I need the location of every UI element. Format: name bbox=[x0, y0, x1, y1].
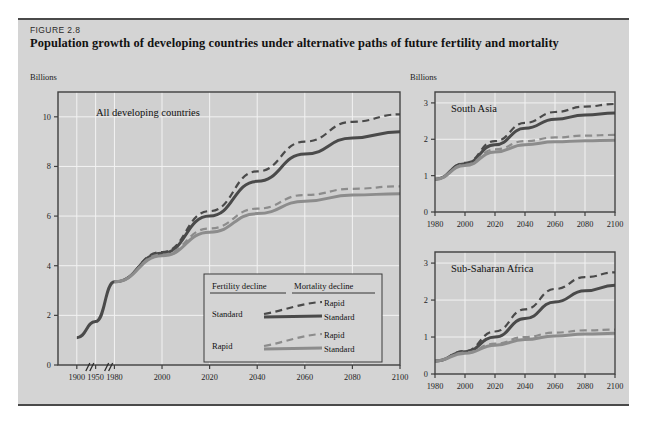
x-tick-label: 2100 bbox=[607, 382, 624, 391]
x-tick-label: 2020 bbox=[201, 373, 218, 382]
south-asia-chart-svg: 01231980200020202040206020802100South As… bbox=[403, 82, 629, 242]
y-tick-label: 6 bbox=[47, 212, 51, 221]
legend-label: Standard bbox=[212, 309, 243, 319]
y-tick-label: 0 bbox=[47, 361, 51, 370]
panel-title: South Asia bbox=[451, 103, 497, 114]
x-tick-label: 2000 bbox=[154, 373, 171, 382]
legend-label: Mortality decline bbox=[294, 281, 354, 291]
panel-title: Sub-Saharan Africa bbox=[451, 263, 534, 274]
y-tick-label: 2 bbox=[424, 135, 428, 144]
main-chart-axis-unit: Billions bbox=[30, 72, 57, 82]
x-tick-label: 2000 bbox=[457, 382, 474, 391]
x-tick-label: 2100 bbox=[607, 220, 624, 229]
x-tick-label: 2020 bbox=[487, 382, 504, 391]
x-tick-label: 2040 bbox=[517, 220, 534, 229]
y-tick-label: 0 bbox=[424, 208, 428, 217]
y-tick-label: 10 bbox=[43, 113, 51, 122]
legend-label: Rapid bbox=[212, 341, 233, 351]
y-tick-label: 4 bbox=[47, 262, 52, 271]
y-tick-label: 3 bbox=[424, 259, 428, 268]
chart-panel-sub-saharan-africa: 01231980200020202040206020802100Sub-Saha… bbox=[403, 242, 629, 404]
chart-panel-south-asia: 01231980200020202040206020802100South As… bbox=[403, 82, 629, 242]
x-tick-label: 2080 bbox=[577, 220, 594, 229]
y-tick-label: 1 bbox=[424, 333, 428, 342]
legend-label: Rapid bbox=[324, 298, 345, 308]
south-asia-axis-unit: Billions bbox=[410, 72, 437, 82]
legend-label: Fertility decline bbox=[212, 281, 267, 291]
x-tick-label: 1980 bbox=[427, 220, 444, 229]
y-tick-label: 8 bbox=[47, 162, 51, 171]
figure-root: FIGURE 2.8 Population growth of developi… bbox=[0, 0, 647, 431]
figure-number: FIGURE 2.8 bbox=[30, 25, 80, 35]
y-tick-label: 1 bbox=[424, 172, 428, 181]
legend-solid-sample bbox=[264, 348, 322, 349]
legend-solid-sample bbox=[264, 316, 322, 317]
x-tick-label: 1980 bbox=[106, 373, 123, 382]
panel-title: All developing countries bbox=[96, 107, 200, 118]
figure-card: FIGURE 2.8 Population growth of developi… bbox=[18, 18, 629, 406]
x-tick-label: 2060 bbox=[547, 382, 564, 391]
x-tick-label: 2000 bbox=[457, 220, 474, 229]
chart-panel-all-developing-countries: 0246810190019501980200020202040206020802… bbox=[18, 82, 418, 402]
x-tick-label: 2040 bbox=[517, 382, 534, 391]
y-tick-label: 2 bbox=[47, 311, 51, 320]
y-tick-label: 2 bbox=[424, 296, 428, 305]
x-tick-label: 2060 bbox=[547, 220, 564, 229]
x-tick-label: 2020 bbox=[487, 220, 504, 229]
x-tick-label: 2080 bbox=[577, 382, 594, 391]
x-tick-label: 2040 bbox=[249, 373, 266, 382]
x-tick-label: 2080 bbox=[344, 373, 361, 382]
x-tick-label: 1950 bbox=[87, 373, 104, 382]
chart-legend: Fertility declineMortality declineStanda… bbox=[204, 274, 382, 362]
main-chart-svg: 0246810190019501980200020202040206020802… bbox=[18, 82, 418, 402]
x-tick-label: 2060 bbox=[297, 373, 314, 382]
figure-title: Population growth of developing countrie… bbox=[30, 36, 559, 51]
legend-label: Rapid bbox=[324, 330, 345, 340]
sub-saharan-africa-chart-svg: 01231980200020202040206020802100Sub-Saha… bbox=[403, 242, 629, 404]
x-tick-label: 1900 bbox=[69, 373, 86, 382]
legend-label: Standard bbox=[324, 344, 355, 354]
x-tick-label: 1980 bbox=[427, 382, 444, 391]
y-tick-label: 0 bbox=[424, 370, 428, 379]
y-tick-label: 3 bbox=[424, 99, 428, 108]
legend-label: Standard bbox=[324, 312, 355, 322]
